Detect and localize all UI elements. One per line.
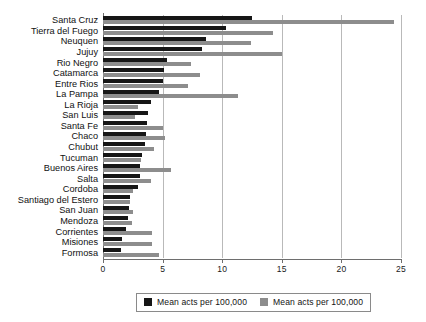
bar-row: Chubut — [0, 142, 426, 153]
bar-series-b — [103, 41, 251, 45]
x-tick-label-20: 20 — [336, 264, 346, 274]
bar-series-a — [103, 153, 142, 157]
category-label: Tierra del Fuego — [31, 26, 98, 36]
bar-series-a — [103, 37, 206, 41]
category-label: Chubut — [68, 142, 98, 152]
category-label: Cordoba — [63, 184, 98, 194]
bar-series-a — [103, 206, 129, 210]
bar-series-a — [103, 47, 202, 51]
bar-row: La Pampa — [0, 89, 426, 100]
bar-row: San Luis — [0, 110, 426, 121]
category-label: Mendoza — [60, 216, 98, 226]
bar-row: Mendoza — [0, 216, 426, 227]
category-label: San Juan — [59, 205, 98, 215]
bar-series-b — [103, 84, 188, 88]
bar-series-b — [103, 210, 133, 214]
x-tick-mark-10 — [222, 259, 223, 263]
bar-series-b — [103, 221, 132, 225]
bar-row: Catamarca — [0, 68, 426, 79]
bar-row: San Juan — [0, 205, 426, 216]
category-label: Entre Rios — [55, 79, 98, 89]
chart-page: 0510152025 Santa CruzTierra del FuegoNeu… — [0, 0, 426, 322]
category-label: Misiones — [62, 237, 98, 247]
bar-row: Santiago del Estero — [0, 195, 426, 206]
category-label: Tucuman — [60, 153, 98, 163]
bar-series-b — [103, 115, 135, 119]
bar-series-b — [103, 200, 130, 204]
bar-row: Corrientes — [0, 226, 426, 237]
bar-series-a — [103, 164, 140, 168]
x-axis-line — [103, 259, 402, 260]
legend-label-series-b: Mean acts per 100,000 — [273, 297, 363, 307]
bar-series-a — [103, 174, 140, 178]
bar-series-a — [103, 68, 164, 72]
category-label: Catamarca — [53, 68, 98, 78]
x-tick-label-0: 0 — [101, 264, 106, 274]
category-label: Neuquen — [61, 36, 98, 46]
category-label: La Pampa — [56, 89, 98, 99]
x-tick-mark-20 — [341, 259, 342, 263]
bar-series-b — [103, 62, 191, 66]
category-label: Santa Fe — [61, 121, 98, 131]
bar-row: Salta — [0, 173, 426, 184]
bar-row: Tucuman — [0, 152, 426, 163]
bar-series-a — [103, 16, 252, 20]
chart-legend: Mean acts per 100,000 Mean acts per 100,… — [136, 293, 371, 312]
category-label: La Rioja — [64, 100, 98, 110]
bar-series-a — [103, 121, 147, 125]
x-tick-mark-15 — [282, 259, 283, 263]
bar-series-a — [103, 216, 128, 220]
bar-series-a — [103, 26, 226, 30]
bar-row: Cordoba — [0, 184, 426, 195]
bar-row: Santa Fe — [0, 121, 426, 132]
bar-series-a — [103, 132, 146, 136]
bar-row: Neuquen — [0, 36, 426, 47]
x-tick-label-10: 10 — [217, 264, 227, 274]
bar-series-a — [103, 195, 130, 199]
bar-row: Rio Negro — [0, 57, 426, 68]
bar-series-a — [103, 185, 138, 189]
bar-series-b — [103, 52, 282, 56]
bar-series-b — [103, 179, 151, 183]
x-tick-mark-5 — [163, 259, 164, 263]
legend-label-series-a: Mean acts per 100,000 — [157, 297, 247, 307]
bar-row: Santa Cruz — [0, 15, 426, 26]
bar-series-a — [103, 79, 163, 83]
category-label: Rio Negro — [57, 58, 98, 68]
bar-series-b — [103, 147, 154, 151]
bar-series-a — [103, 248, 121, 252]
category-label: Chaco — [71, 131, 98, 141]
bar-row: Chaco — [0, 131, 426, 142]
bar-series-b — [103, 242, 152, 246]
bar-row: Entre Rios — [0, 78, 426, 89]
bar-row: Jujuy — [0, 47, 426, 58]
bar-series-b — [103, 126, 163, 130]
bar-row: Formosa — [0, 247, 426, 258]
category-label: Formosa — [62, 248, 98, 258]
bar-series-a — [103, 90, 159, 94]
category-label: San Luis — [62, 110, 98, 120]
bar-series-b — [103, 253, 159, 257]
bar-row: La Rioja — [0, 100, 426, 111]
bar-row: Misiones — [0, 237, 426, 248]
legend-item-series-a: Mean acts per 100,000 — [144, 297, 247, 307]
x-tick-mark-25 — [401, 259, 402, 263]
category-label: Santiago del Estero — [18, 195, 98, 205]
x-tick-label-5: 5 — [160, 264, 165, 274]
bar-series-b — [103, 136, 165, 140]
x-tick-label-25: 25 — [396, 264, 406, 274]
bar-row: Tierra del Fuego — [0, 26, 426, 37]
x-tick-mark-0 — [103, 259, 104, 263]
bar-series-a — [103, 111, 148, 115]
category-label: Buenos Aires — [44, 163, 98, 173]
legend-swatch-gray-square — [260, 298, 268, 306]
bar-series-a — [103, 142, 145, 146]
bar-series-a — [103, 100, 151, 104]
bar-series-b — [103, 168, 171, 172]
x-tick-label-15: 15 — [277, 264, 287, 274]
bar-series-b — [103, 94, 238, 98]
bar-series-a — [103, 227, 126, 231]
bar-row: Buenos Aires — [0, 163, 426, 174]
bar-series-b — [103, 73, 200, 77]
category-label: Santa Cruz — [52, 15, 98, 25]
